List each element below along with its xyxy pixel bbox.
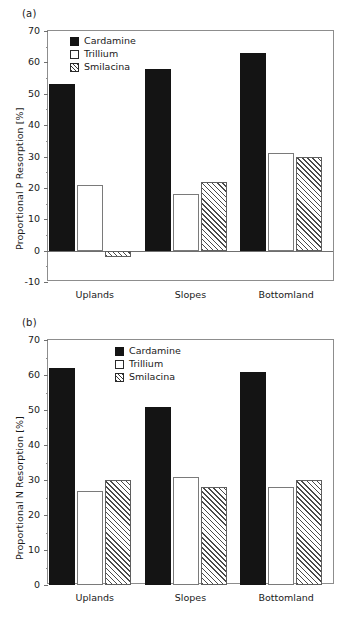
panel-b-label: (b) bbox=[22, 317, 37, 328]
y-axis-tick bbox=[44, 94, 48, 95]
legend: CardamineTrilliumSmilacina bbox=[70, 35, 136, 74]
bar-cardamine-uplands bbox=[49, 84, 75, 250]
bar-smilacina-slopes bbox=[201, 182, 227, 251]
y-axis-tick-label: 70 bbox=[0, 25, 40, 36]
legend-label: Smilacina bbox=[129, 371, 175, 383]
y-axis-minor-tick bbox=[46, 428, 48, 429]
legend-label: Smilacina bbox=[84, 61, 130, 73]
legend-item-smilacina: Smilacina bbox=[70, 61, 136, 73]
zero-baseline bbox=[48, 251, 333, 252]
x-axis-category-label: Uplands bbox=[47, 289, 143, 300]
bar-trillium-slopes bbox=[173, 477, 199, 586]
legend-item-trillium: Trillium bbox=[70, 48, 136, 60]
y-axis-tick bbox=[44, 282, 48, 283]
y-axis-minor-tick bbox=[46, 498, 48, 499]
y-axis-tick-label: -10 bbox=[0, 276, 40, 287]
y-axis-tick bbox=[44, 445, 48, 446]
figure-two-panel-bar-chart: (a) Proportional P Resorption [%] -10010… bbox=[0, 0, 344, 621]
legend-item-cardamine: Cardamine bbox=[115, 345, 181, 357]
bar-trillium-bottomland bbox=[268, 487, 294, 585]
panel-b-plot-area bbox=[47, 339, 334, 584]
y-axis-tick bbox=[44, 219, 48, 220]
y-axis-tick-label: 0 bbox=[0, 244, 40, 255]
legend-swatch-smilacina-icon bbox=[70, 63, 79, 72]
y-axis-tick-label: 50 bbox=[0, 404, 40, 415]
y-axis-minor-tick bbox=[46, 393, 48, 394]
y-axis-minor-tick bbox=[46, 109, 48, 110]
y-axis-minor-tick bbox=[46, 533, 48, 534]
x-axis-category-label: Bottomland bbox=[238, 289, 334, 300]
legend-label: Cardamine bbox=[129, 345, 181, 357]
panel-b: (b) Proportional N Resorption [%] 010203… bbox=[0, 312, 344, 621]
y-axis-tick-label: 10 bbox=[0, 544, 40, 555]
bar-trillium-uplands bbox=[77, 491, 103, 586]
y-axis-tick-label: 70 bbox=[0, 334, 40, 345]
legend-swatch-trillium-icon bbox=[70, 50, 79, 59]
legend-swatch-smilacina-icon bbox=[115, 373, 124, 382]
y-axis-minor-tick bbox=[46, 172, 48, 173]
y-axis-tick-label: 50 bbox=[0, 87, 40, 98]
y-axis-tick-label: 20 bbox=[0, 509, 40, 520]
y-axis-minor-tick bbox=[46, 266, 48, 267]
y-axis-tick-label: 30 bbox=[0, 150, 40, 161]
y-axis-tick bbox=[44, 340, 48, 341]
y-axis-tick-label: 10 bbox=[0, 213, 40, 224]
y-axis-tick-label: 20 bbox=[0, 181, 40, 192]
bar-cardamine-uplands bbox=[49, 368, 75, 585]
x-axis-category-label: Slopes bbox=[143, 592, 239, 603]
y-axis-minor-tick bbox=[46, 78, 48, 79]
x-axis-category-label: Bottomland bbox=[238, 592, 334, 603]
x-axis-category-label: Uplands bbox=[47, 592, 143, 603]
y-axis-tick-label: 40 bbox=[0, 439, 40, 450]
bar-trillium-slopes bbox=[173, 194, 199, 250]
y-axis-tick-label: 0 bbox=[0, 579, 40, 590]
legend-swatch-cardamine-icon bbox=[115, 347, 124, 356]
y-axis-tick-label: 60 bbox=[0, 56, 40, 67]
y-axis-minor-tick bbox=[46, 568, 48, 569]
legend-swatch-trillium-icon bbox=[115, 360, 124, 369]
legend-label: Cardamine bbox=[84, 35, 136, 47]
y-axis-tick bbox=[44, 125, 48, 126]
y-axis-tick bbox=[44, 188, 48, 189]
y-axis-minor-tick bbox=[46, 47, 48, 48]
y-axis-tick bbox=[44, 375, 48, 376]
bar-smilacina-bottomland bbox=[296, 480, 322, 585]
y-axis-tick bbox=[44, 410, 48, 411]
y-axis-tick bbox=[44, 31, 48, 32]
legend: CardamineTrilliumSmilacina bbox=[115, 345, 181, 384]
bar-cardamine-bottomland bbox=[240, 53, 266, 251]
y-axis-minor-tick bbox=[46, 141, 48, 142]
legend-item-smilacina: Smilacina bbox=[115, 371, 181, 383]
y-axis-minor-tick bbox=[46, 463, 48, 464]
y-axis-tick bbox=[44, 157, 48, 158]
x-axis-category-label: Slopes bbox=[143, 289, 239, 300]
y-axis-tick-label: 30 bbox=[0, 474, 40, 485]
y-axis-tick bbox=[44, 550, 48, 551]
panel-a-label: (a) bbox=[22, 8, 37, 19]
y-axis-tick bbox=[44, 62, 48, 63]
y-axis-tick bbox=[44, 515, 48, 516]
bar-cardamine-bottomland bbox=[240, 372, 266, 586]
bar-trillium-uplands bbox=[77, 185, 103, 251]
legend-label: Trillium bbox=[84, 48, 118, 60]
y-axis-tick-label: 40 bbox=[0, 119, 40, 130]
panel-a: (a) Proportional P Resorption [%] -10010… bbox=[0, 0, 344, 312]
bar-smilacina-uplands bbox=[105, 480, 131, 585]
legend-label: Trillium bbox=[129, 358, 163, 370]
bar-smilacina-slopes bbox=[201, 487, 227, 585]
y-axis-minor-tick bbox=[46, 235, 48, 236]
y-axis-minor-tick bbox=[46, 358, 48, 359]
legend-item-trillium: Trillium bbox=[115, 358, 181, 370]
legend-item-cardamine: Cardamine bbox=[70, 35, 136, 47]
y-axis-tick-label: 60 bbox=[0, 369, 40, 380]
y-axis-tick bbox=[44, 480, 48, 481]
y-axis-minor-tick bbox=[46, 204, 48, 205]
bar-trillium-bottomland bbox=[268, 153, 294, 250]
y-axis-tick bbox=[44, 585, 48, 586]
bar-smilacina-bottomland bbox=[296, 157, 322, 251]
bar-cardamine-slopes bbox=[145, 69, 171, 251]
legend-swatch-cardamine-icon bbox=[70, 37, 79, 46]
bar-smilacina-uplands bbox=[105, 251, 131, 257]
bar-cardamine-slopes bbox=[145, 407, 171, 586]
